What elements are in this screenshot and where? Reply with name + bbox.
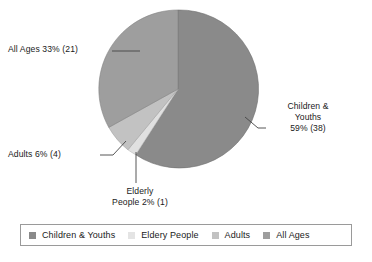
callout-adults: Adults 6% (4) <box>8 149 61 160</box>
pie-chart-figure: All Ages 33% (21) Adults 6% (4) Children… <box>0 0 372 262</box>
callout-elderly-line2: People 2% (1) <box>88 197 192 208</box>
legend-item-eldery-people[interactable]: Eldery People <box>128 230 198 240</box>
callout-adults-text: Adults 6% (4) <box>8 149 61 159</box>
legend-label-all-ages: All Ages <box>276 230 309 240</box>
callout-all-ages-text: All Ages 33% (21) <box>8 44 78 54</box>
legend-item-adults[interactable]: Adults <box>212 230 251 240</box>
legend-swatch-eldery-people-icon <box>128 232 135 239</box>
legend-label-children-youths: Children & Youths <box>42 230 115 240</box>
callout-all-ages: All Ages 33% (21) <box>8 44 78 55</box>
legend-item-children-youths[interactable]: Children & Youths <box>29 230 115 240</box>
legend-label-eldery-people: Eldery People <box>141 230 198 240</box>
callout-children-line3: 59% (38) <box>266 123 350 134</box>
callout-elderly-people: Elderly People 2% (1) <box>88 186 192 208</box>
callout-elderly-line1: Elderly <box>88 186 192 197</box>
callout-children-line2: Youths <box>266 112 350 123</box>
legend-swatch-all-ages-icon <box>263 232 270 239</box>
legend-label-adults: Adults <box>225 230 251 240</box>
chart-legend: Children & Youths Eldery People Adults A… <box>20 224 352 246</box>
callout-children-line1: Children & <box>266 101 350 112</box>
callout-children-youths: Children & Youths 59% (38) <box>266 101 350 134</box>
legend-swatch-children-youths-icon <box>29 232 36 239</box>
legend-swatch-adults-icon <box>212 232 219 239</box>
legend-item-all-ages[interactable]: All Ages <box>263 230 309 240</box>
